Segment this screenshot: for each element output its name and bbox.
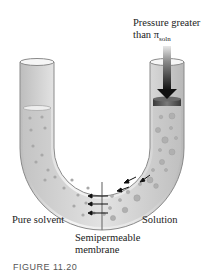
reverse-osmosis-figure: Pressure greater than πsoln Pure solvent… xyxy=(0,0,206,271)
solution-label: Solution xyxy=(142,214,178,226)
figure-caption: FIGURE 11.20 xyxy=(13,262,77,271)
pi-subscript: soln xyxy=(159,35,171,43)
u-tube-diagram xyxy=(0,0,206,271)
pressure-label-line2: than πsoln xyxy=(133,29,171,45)
membrane-label-line1: Semipermeable xyxy=(75,232,140,244)
pressure-label-line1: Pressure greater xyxy=(133,17,200,29)
membrane-label-line2: membrane xyxy=(75,244,119,256)
pure-solvent-label: Pure solvent xyxy=(12,214,64,226)
pressure-label-than: than xyxy=(133,29,154,40)
